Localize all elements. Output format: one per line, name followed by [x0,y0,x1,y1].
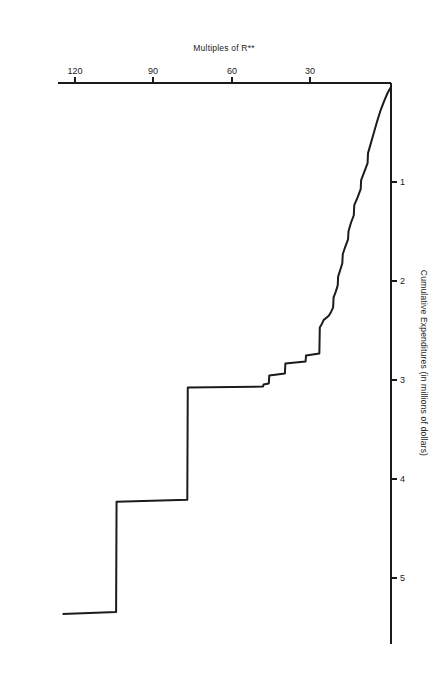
y-axis-ticks: 1 2 3 4 5 [391,177,405,583]
axis-lines [58,83,391,644]
x-axis-title: Multiples of R** [193,43,255,53]
x-tick-label-60: 60 [227,66,237,76]
y-axis-title: Cumulative Expenditures (in millions of … [419,270,429,456]
rotated-plot-stage: 1 2 3 4 5 30 60 90 120 Multiples of R** … [0,0,439,697]
y-tick-label-3: 3 [400,375,405,385]
x-tick-label-90: 90 [148,66,158,76]
y-tick-label-4: 4 [400,474,405,484]
x-axis-ticks: 30 60 90 120 [67,66,315,83]
y-tick-label-2: 2 [400,276,405,286]
y-tick-label-5: 5 [400,573,405,583]
chart-plot: 1 2 3 4 5 30 60 90 120 Multiples of R** … [0,0,439,697]
figure-canvas: 1 2 3 4 5 30 60 90 120 Multiples of R** … [0,0,439,697]
cumulative-expenditures-line [63,87,391,614]
x-tick-label-120: 120 [67,66,82,76]
x-tick-label-30: 30 [305,66,315,76]
y-tick-label-1: 1 [400,177,405,187]
